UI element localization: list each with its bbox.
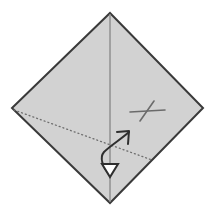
origami-canvas	[0, 0, 220, 213]
origami-diagram: Origami step diagram Square sheet of pap…	[0, 0, 220, 213]
